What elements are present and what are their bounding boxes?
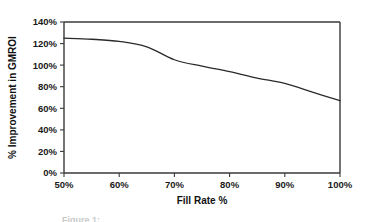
y-tick-label-3: 60% <box>38 103 58 114</box>
y-tick-label-7: 140% <box>33 16 58 27</box>
figure-caption-strip: Figure 1: <box>0 216 365 222</box>
gmroi-vs-fill-rate-line-chart: 0% 20% 40% 60% 80% 100% 120% 140% 50% 60… <box>0 0 365 222</box>
x-tick-label-0: 50% <box>54 179 74 190</box>
y-tick-label-0: 0% <box>43 167 57 178</box>
x-tick-label-5: 100% <box>328 179 353 190</box>
y-tick-label-5: 100% <box>33 60 58 71</box>
x-axis-title: Fill Rate % <box>177 195 228 206</box>
y-tick-label-1: 20% <box>38 146 58 157</box>
x-tick-label-1: 60% <box>110 179 130 190</box>
y-axis-title: % Improvement in GMROI <box>7 36 18 159</box>
figure-caption: Figure 1: <box>62 216 100 222</box>
chart-figure: 0% 20% 40% 60% 80% 100% 120% 140% 50% 60… <box>0 0 365 222</box>
y-tick-label-4: 80% <box>38 81 58 92</box>
y-tick-label-2: 40% <box>38 124 58 135</box>
y-tick-label-6: 120% <box>33 38 58 49</box>
x-axis-tick-labels: 50% 60% 70% 80% 90% 100% <box>54 179 352 190</box>
plot-area-background <box>64 22 340 173</box>
y-axis-tick-labels: 0% 20% 40% 60% 80% 100% 120% 140% <box>33 16 58 178</box>
x-tick-label-2: 70% <box>165 179 185 190</box>
x-tick-label-4: 90% <box>275 179 295 190</box>
x-tick-label-3: 80% <box>220 179 240 190</box>
